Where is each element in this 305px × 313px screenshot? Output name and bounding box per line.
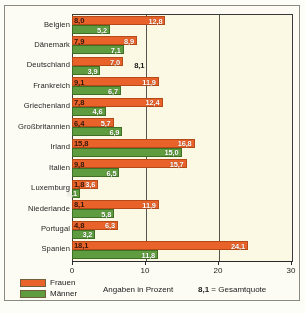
gesamtquote-sample-value: 8,1	[198, 285, 209, 294]
legend-swatch-frauen	[20, 279, 46, 287]
category-label: Dänemark	[34, 40, 70, 49]
gesamtquote-note: 8,1 = Gesamtquote	[198, 285, 266, 294]
bar-value-maenner: 3,9	[87, 67, 99, 76]
gesamtquote-value: 1,8	[74, 180, 84, 189]
legend-label-maenner: Männer	[50, 289, 77, 298]
bar-value-frauen: 12,8	[148, 17, 164, 26]
gesamtquote-value: 4,8	[74, 221, 84, 230]
category-label: Großbritannien	[18, 122, 70, 131]
gesamtquote-note-text: = Gesamtquote	[211, 285, 266, 294]
legend-item-frauen: Frauen	[20, 278, 80, 287]
bar-value-maenner: 6,7	[108, 87, 120, 96]
x-tick	[218, 261, 219, 265]
bar-value-maenner: 4,6	[93, 107, 105, 116]
x-tick-label: 20	[214, 266, 223, 275]
bar-value-maenner: 11,8	[142, 251, 158, 260]
x-tick	[72, 261, 73, 265]
gesamtquote-value: 7,9	[74, 37, 84, 46]
bar-value-frauen: 7,0	[110, 58, 122, 67]
category-label: Luxemburg	[31, 183, 70, 192]
category-label: Portugal	[41, 224, 70, 233]
gesamtquote-value: 7,8	[74, 98, 84, 107]
x-tick-label: 30	[287, 266, 296, 275]
category-label: Frankreich	[33, 81, 70, 90]
axis-units-note: Angaben in Prozent	[103, 285, 173, 294]
bar-value-frauen: 15,7	[170, 160, 186, 169]
gesamtquote-value: 9,8	[74, 160, 84, 169]
gesamtquote-value: 9,1	[74, 78, 84, 87]
bar-value-frauen: 24,1	[231, 242, 247, 251]
gesamtquote-value: 6,4	[74, 119, 84, 128]
bar-value-frauen: 11,9	[142, 78, 158, 87]
gesamtquote-value: 8,0	[74, 16, 84, 25]
bar-value-maenner: 5,8	[101, 210, 113, 219]
x-tick	[145, 261, 146, 265]
x-axis	[72, 261, 292, 262]
bar-value-frauen: 12,4	[146, 98, 162, 107]
bar-frauen	[72, 241, 248, 250]
x-tick	[291, 261, 292, 265]
gesamtquote-value: 8,1	[134, 61, 144, 70]
x-tick-label: 10	[141, 266, 150, 275]
legend-swatch-maenner	[20, 290, 46, 298]
category-label: Griechenland	[24, 101, 70, 110]
bar-value-frauen: 3,6	[85, 180, 97, 189]
bar-value-maenner: 5,2	[97, 26, 109, 35]
bar-value-maenner: 6,9	[109, 128, 121, 137]
gesamtquote-value: 8,1	[74, 200, 84, 209]
category-label: Irland	[50, 142, 70, 151]
bar-value-frauen: 6,3	[105, 221, 117, 230]
category-label: Niederlande	[28, 204, 70, 213]
category-label: Spanien	[41, 244, 70, 253]
legend-label-frauen: Frauen	[50, 278, 75, 287]
bar-value-frauen: 11,9	[142, 201, 158, 210]
bar-value-maenner: 15,0	[165, 148, 181, 157]
gridline-20	[219, 15, 220, 262]
legend: Frauen Männer	[20, 278, 80, 300]
category-label: Deutschland	[27, 60, 70, 69]
x-tick-label: 0	[70, 266, 74, 275]
bar-value-maenner: 6,5	[106, 169, 118, 178]
legend-item-maenner: Männer	[20, 289, 80, 298]
category-label: Italien	[49, 163, 70, 172]
category-label: Belgien	[44, 20, 70, 29]
bar-value-maenner: 7,1	[111, 46, 123, 55]
bar-frauen	[72, 139, 195, 148]
chart-figure: 12,85,28,08,97,17,97,03,98,111,96,79,112…	[0, 0, 305, 313]
bar-value-frauen: 8,9	[124, 37, 136, 46]
gesamtquote-value: 18,1	[74, 241, 88, 250]
gesamtquote-value: 15,8	[74, 139, 88, 148]
bar-value-maenner: 3,2	[82, 230, 94, 239]
